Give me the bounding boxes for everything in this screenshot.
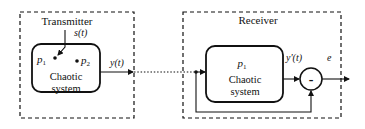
transmitter-block-line1: Chaotic [50,71,83,82]
param-p1-point [53,56,57,60]
receiver-title: Receiver [238,14,277,26]
param-p2-point [75,59,79,63]
transmitter-title: Transmitter [42,15,93,27]
receiver-block-line2: system [230,86,259,97]
error-signal-label: e [327,52,332,63]
receiver-group: Receiver p1 Chaotic system y'(t) - e [183,12,349,118]
diagram-canvas: Transmitter s(t) p1 p2 Chaotic system y(… [0,0,365,129]
transmitter-block-line2: system [51,83,80,94]
transmitter-group: Transmitter s(t) p1 p2 Chaotic system y(… [20,12,134,118]
input-signal-label: s(t) [74,27,88,39]
receiver-param-p1: p1 [237,57,248,71]
transmitter-param-p1: p1 [36,53,47,67]
summing-sign: - [309,72,314,87]
receiver-output-label: y'(t) [285,52,303,64]
receiver-block-line1: Chaotic [229,74,262,85]
transmitter-param-p2: p2 [80,54,91,68]
transmitter-output-label: y(t) [109,57,125,69]
input-signal-arrow [58,30,65,55]
